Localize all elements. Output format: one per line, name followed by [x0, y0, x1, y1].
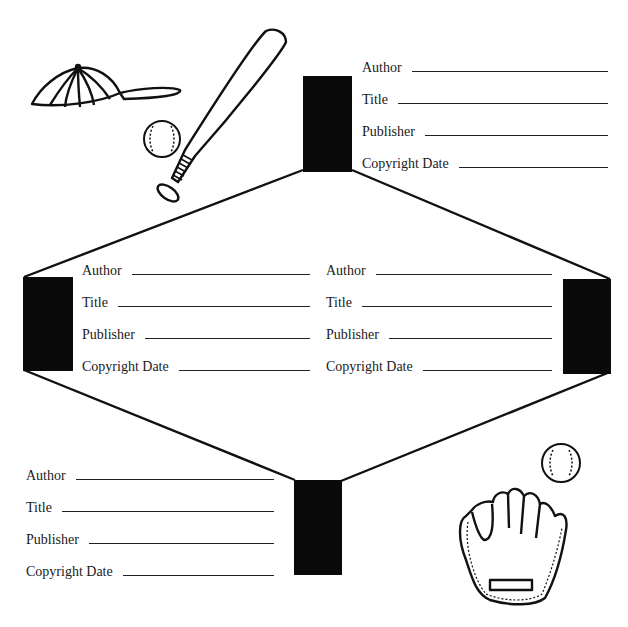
write-line[interactable]: [123, 575, 274, 576]
baseball-icon: [542, 444, 580, 482]
third-base-block: [23, 277, 73, 371]
field-label: Author: [26, 468, 76, 484]
baseball-icon: [144, 121, 180, 157]
author-field[interactable]: Author: [26, 468, 274, 484]
publisher-field[interactable]: Publisher: [362, 124, 608, 140]
field-label: Title: [362, 92, 398, 108]
write-line[interactable]: [398, 103, 608, 104]
write-line[interactable]: [459, 167, 608, 168]
field-label: Publisher: [82, 327, 145, 343]
publisher-field[interactable]: Publisher: [82, 327, 310, 343]
field-label: Author: [326, 263, 376, 279]
field-label: Title: [326, 295, 362, 311]
home-plate-block: [294, 480, 342, 575]
field-label: Publisher: [326, 327, 389, 343]
copyright-date-field[interactable]: Copyright Date: [326, 359, 552, 375]
publisher-field[interactable]: Publisher: [26, 532, 274, 548]
copyright-date-field[interactable]: Copyright Date: [362, 156, 608, 172]
baseball-cap-icon: [32, 65, 180, 107]
write-line[interactable]: [76, 479, 274, 480]
second-base-block: [303, 76, 352, 172]
author-field[interactable]: Author: [82, 263, 310, 279]
write-line[interactable]: [179, 370, 310, 371]
write-line[interactable]: [425, 135, 608, 136]
first-base-block: [563, 279, 611, 374]
diamond-line-bottom-left: [24, 370, 295, 480]
title-field[interactable]: Title: [326, 295, 552, 311]
field-label: Copyright Date: [326, 359, 423, 375]
write-line[interactable]: [423, 370, 552, 371]
write-line[interactable]: [376, 274, 552, 275]
field-label: Copyright Date: [82, 359, 179, 375]
write-line[interactable]: [89, 543, 274, 544]
field-label: Publisher: [26, 532, 89, 548]
field-label: Publisher: [362, 124, 425, 140]
author-field[interactable]: Author: [362, 60, 608, 76]
copyright-date-field[interactable]: Copyright Date: [26, 564, 274, 580]
write-line[interactable]: [412, 71, 608, 72]
field-label: Title: [26, 500, 62, 516]
title-field[interactable]: Title: [362, 92, 608, 108]
write-line[interactable]: [62, 511, 274, 512]
write-line[interactable]: [118, 306, 310, 307]
field-label: Author: [82, 263, 132, 279]
write-line[interactable]: [145, 338, 310, 339]
write-line[interactable]: [132, 274, 310, 275]
write-line[interactable]: [389, 338, 552, 339]
author-field[interactable]: Author: [326, 263, 552, 279]
field-label: Copyright Date: [362, 156, 459, 172]
field-label: Title: [82, 295, 118, 311]
title-field[interactable]: Title: [82, 295, 310, 311]
publisher-field[interactable]: Publisher: [326, 327, 552, 343]
field-label: Copyright Date: [26, 564, 123, 580]
baseball-glove-icon: [460, 489, 567, 604]
diamond-lines: [24, 170, 610, 481]
baseball-bat-icon: [155, 30, 286, 205]
title-field[interactable]: Title: [26, 500, 274, 516]
field-label: Author: [362, 60, 412, 76]
copyright-date-field[interactable]: Copyright Date: [82, 359, 310, 375]
write-line[interactable]: [362, 306, 552, 307]
